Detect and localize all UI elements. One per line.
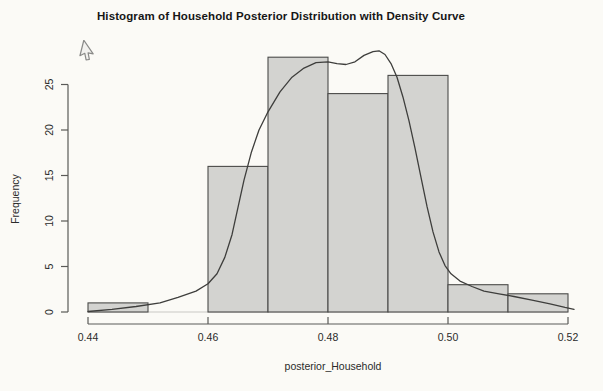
histogram-bar <box>328 94 388 312</box>
chart-title: Histogram of Household Posterior Distrib… <box>0 10 562 22</box>
plot-window: Histogram of Household Posterior Distrib… <box>0 0 603 391</box>
mouse-cursor-icon <box>78 40 100 66</box>
y-tick-label-10: 10 <box>43 215 55 227</box>
histogram-bar <box>388 75 448 312</box>
x-tick-label-0.52: 0.52 <box>558 331 579 343</box>
y-tick-label-20: 20 <box>43 124 55 136</box>
x-tick-label-0.48: 0.48 <box>318 331 339 343</box>
y-axis-label: Frequency <box>9 156 21 242</box>
histogram-bar <box>268 57 328 312</box>
y-tick-label-15: 15 <box>43 170 55 182</box>
y-tick-label-25: 25 <box>43 79 55 91</box>
x-axis-label: posterior_Household <box>183 360 483 372</box>
x-tick-label-0.46: 0.46 <box>198 331 219 343</box>
y-tick-label-0: 0 <box>43 309 55 315</box>
histogram-bar <box>208 166 268 312</box>
x-tick-label-0.44: 0.44 <box>78 331 99 343</box>
x-tick-label-0.50: 0.50 <box>438 331 459 343</box>
y-tick-label-5: 5 <box>43 263 55 269</box>
